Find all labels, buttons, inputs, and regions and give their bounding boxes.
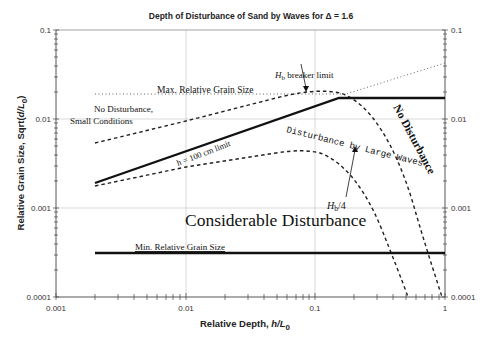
y-tick-label: 0.001 bbox=[31, 204, 52, 213]
x-axis-label: Relative Depth, h/L0 bbox=[200, 318, 291, 332]
x-axis-ticks bbox=[56, 293, 445, 300]
y-tick-label: 0.0001 bbox=[27, 293, 52, 302]
hb-arrowhead-icon bbox=[303, 86, 309, 92]
y-tick-label: 0.1 bbox=[451, 26, 463, 35]
y-tick-labels-left: 0.1 0.01 0.001 0.0001 bbox=[27, 26, 52, 302]
y-tick-labels-right: 0.1 0.01 0.001 0.0001 bbox=[451, 26, 476, 302]
plot-frame bbox=[56, 30, 445, 297]
y-tick-label: 0.01 bbox=[35, 115, 51, 124]
y-tick-label: 0.001 bbox=[451, 204, 472, 213]
annotation-considerable-disturbance: Considerable Disturbance bbox=[185, 210, 366, 230]
x-tick-label: 1 bbox=[443, 304, 448, 313]
annotation-no-disturbance-2: Small Conditions bbox=[70, 116, 133, 126]
y-axis-ticks bbox=[53, 30, 448, 297]
x-tick-label: 0.001 bbox=[46, 304, 67, 313]
x-tick-labels: 0.001 0.01 0.1 1 bbox=[46, 304, 448, 313]
y-tick-label: 0.0001 bbox=[451, 293, 476, 302]
x-tick-label: 0.1 bbox=[309, 304, 321, 313]
x-tick-label: 0.01 bbox=[178, 304, 194, 313]
annotation-disturbance-large-waves: Disturbance by Large Waves bbox=[285, 125, 424, 169]
gridlines bbox=[56, 30, 445, 297]
y-tick-label: 0.1 bbox=[40, 26, 52, 35]
hb4-pointer-arrow bbox=[346, 150, 355, 197]
annotation-no-disturbance-1: No Disturbance, bbox=[94, 104, 153, 114]
series-max-grain-size bbox=[95, 63, 445, 94]
annotation-max-grain-size: Max. Relative Grain Size bbox=[157, 85, 254, 95]
y-axis-label: Relative Grain Size, Sqrt(d/L0) bbox=[15, 96, 29, 231]
annotation-min-grain-size: Min. Relative Grain Size bbox=[135, 242, 225, 252]
chart: Depth of Disturbance of Sand by Waves fo… bbox=[0, 0, 489, 343]
chart-title: Depth of Disturbance of Sand by Waves fo… bbox=[149, 11, 354, 21]
y-tick-label: 0.01 bbox=[451, 115, 467, 124]
